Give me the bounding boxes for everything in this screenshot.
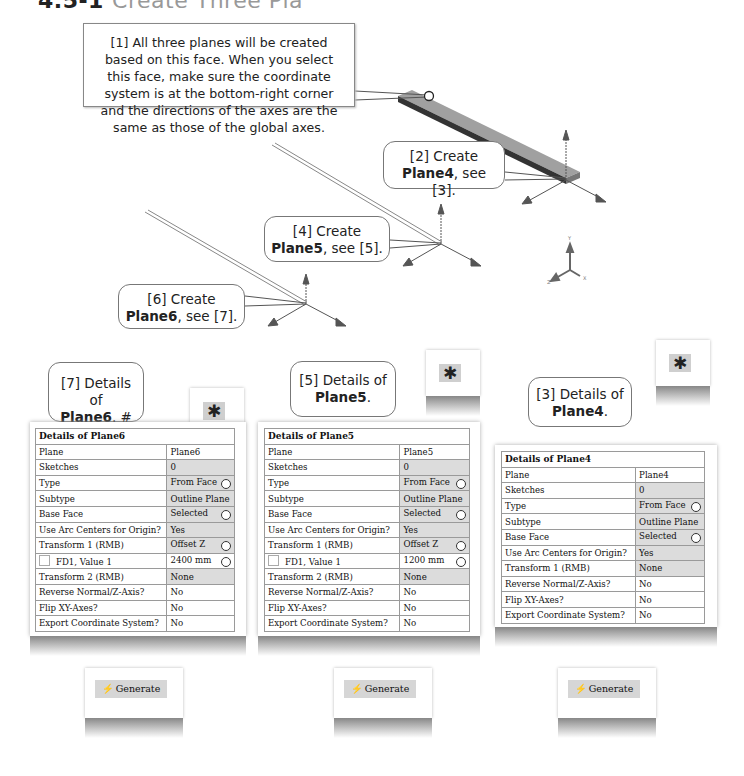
callout-create-plane4: [2] Create Plane4, see [3]. — [383, 141, 505, 189]
row-value[interactable]: Offset Z — [167, 538, 235, 554]
details-title: Details of Plane6 — [36, 429, 235, 445]
row-label: Base Face — [265, 506, 400, 522]
generate-button[interactable]: ⚡Generate — [344, 680, 416, 698]
row-value[interactable]: No — [400, 584, 470, 600]
callout-text: [4] Create — [271, 223, 383, 240]
generate-button[interactable]: ⚡Generate — [568, 680, 640, 698]
callout-create-plane5: [4] Create Plane5, see [5]. — [264, 216, 390, 262]
callout-details-plane5: [5] Details of Plane5. — [290, 361, 396, 417]
radio-icon[interactable] — [221, 557, 231, 567]
row-value[interactable]: No — [167, 616, 235, 632]
row-label: Transform 1 (RMB) — [36, 538, 167, 554]
table-row: Transform 1 (RMB)None — [502, 561, 705, 577]
row-value[interactable]: No — [400, 600, 470, 616]
row-value[interactable]: No — [636, 592, 705, 608]
row-value[interactable]: From Face — [400, 475, 470, 491]
radio-icon[interactable] — [456, 510, 466, 520]
table-row: Use Arc Centers for Origin?Yes — [36, 522, 235, 538]
row-label: Reverse Normal/Z-Axis? — [502, 576, 636, 592]
radio-icon[interactable] — [221, 541, 231, 551]
new-plane-icon[interactable]: ✱ — [439, 364, 461, 382]
row-label: Plane — [265, 444, 400, 460]
row-value[interactable]: No — [400, 616, 470, 632]
radio-icon[interactable] — [456, 541, 466, 551]
row-value[interactable]: From Face — [167, 475, 235, 491]
row-value[interactable]: Plane4 — [636, 467, 705, 483]
radio-icon[interactable] — [456, 479, 466, 489]
callout-text: . — [604, 403, 608, 419]
svg-text:Y: Y — [567, 235, 572, 241]
generate-icon: ⚡ — [102, 683, 114, 694]
details-title: Details of Plane5 — [265, 429, 470, 445]
callout-text: . — [367, 389, 371, 405]
row-value: 0 — [167, 460, 235, 476]
parameter-checkbox[interactable] — [268, 555, 279, 566]
row-value[interactable]: Selected — [636, 529, 705, 545]
page-curl-shadow — [334, 718, 432, 738]
new-plane-icon[interactable]: ✱ — [669, 354, 691, 372]
row-label: Subtype — [36, 491, 167, 507]
radio-icon[interactable] — [221, 479, 231, 489]
table-row: SubtypeOutline Plane — [265, 491, 470, 507]
row-value: 0 — [400, 460, 470, 476]
new-plane-icon[interactable]: ✱ — [203, 402, 225, 420]
row-value[interactable]: Outline Plane — [400, 491, 470, 507]
row-label: Use Arc Centers for Origin? — [36, 522, 167, 538]
page-curl-shadow — [426, 396, 480, 416]
details-panel-plane6: Details of Plane6 PlanePlane6 Sketches0 … — [30, 422, 246, 636]
row-value[interactable]: Selected — [400, 506, 470, 522]
row-value[interactable]: No — [636, 607, 705, 623]
table-row: TypeFrom Face — [502, 498, 705, 514]
radio-icon[interactable] — [221, 510, 231, 520]
row-value[interactable]: Plane6 — [167, 444, 235, 460]
row-label: Export Coordinate System? — [265, 616, 400, 632]
callout-plane-name: Plane5 — [271, 240, 323, 256]
row-label: Plane — [502, 467, 636, 483]
radio-icon[interactable] — [456, 557, 466, 567]
row-value[interactable]: None — [636, 561, 705, 577]
row-value[interactable]: 2400 mm — [167, 553, 235, 569]
row-value[interactable]: No — [167, 600, 235, 616]
radio-icon[interactable] — [691, 533, 701, 543]
row-label: Transform 1 (RMB) — [265, 538, 400, 554]
row-value[interactable]: Outline Plane — [636, 514, 705, 530]
generate-label: Generate — [589, 683, 634, 694]
parameter-checkbox[interactable] — [39, 555, 50, 566]
table-row: FD1, Value 11200 mm — [265, 553, 470, 569]
row-label: FD1, Value 1 — [265, 553, 400, 569]
row-value[interactable]: Plane5 — [400, 444, 470, 460]
row-value[interactable]: No — [167, 584, 235, 600]
row-label: Flip XY-Axes? — [502, 592, 636, 608]
svg-text:Z: Z — [547, 279, 551, 285]
row-value[interactable]: Yes — [400, 522, 470, 538]
generate-label: Generate — [365, 683, 410, 694]
row-label: Transform 2 (RMB) — [265, 569, 400, 585]
row-value[interactable]: None — [400, 569, 470, 585]
row-value[interactable]: Yes — [167, 522, 235, 538]
row-value[interactable]: 1200 mm — [400, 553, 470, 569]
callout-details-plane6: [7] Details of Plane6. # — [48, 362, 144, 422]
radio-icon[interactable] — [691, 502, 701, 512]
table-row: PlanePlane6 — [36, 444, 235, 460]
row-label: Use Arc Centers for Origin? — [265, 522, 400, 538]
table-row: Reverse Normal/Z-Axis?No — [265, 584, 470, 600]
row-label: Base Face — [502, 529, 636, 545]
row-label: Reverse Normal/Z-Axis? — [265, 584, 400, 600]
row-value[interactable]: Selected — [167, 506, 235, 522]
table-row: Export Coordinate System?No — [36, 616, 235, 632]
row-label: Sketches — [36, 460, 167, 476]
row-value[interactable]: None — [167, 569, 235, 585]
generate-button[interactable]: ⚡Generate — [95, 680, 167, 698]
row-value[interactable]: Outline Plane — [167, 491, 235, 507]
page-curl-shadow — [656, 386, 710, 406]
row-value[interactable]: No — [636, 576, 705, 592]
row-value[interactable]: Offset Z — [400, 538, 470, 554]
table-row: Flip XY-Axes?No — [502, 592, 705, 608]
row-label: Reverse Normal/Z-Axis? — [36, 584, 167, 600]
row-value[interactable]: From Face — [636, 498, 705, 514]
row-value[interactable]: Yes — [636, 545, 705, 561]
callout-plane-name: Plane5 — [315, 389, 367, 405]
table-row: Flip XY-Axes?No — [265, 600, 470, 616]
row-label: Plane — [36, 444, 167, 460]
table-row: Base FaceSelected — [36, 506, 235, 522]
